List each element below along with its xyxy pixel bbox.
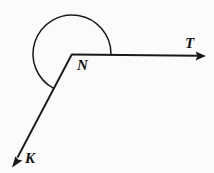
angle-diagram-svg <box>0 0 214 173</box>
arrowhead-k-icon <box>12 156 22 167</box>
ray-label-t: T <box>185 36 194 51</box>
vertex-label-n: N <box>77 58 88 73</box>
ray-label-k: K <box>25 151 35 166</box>
reflex-angle-arc <box>33 15 111 88</box>
ray-n-to-k <box>18 54 73 158</box>
ray-n-to-t <box>72 55 199 56</box>
angle-diagram-canvas: N T K <box>0 0 214 173</box>
